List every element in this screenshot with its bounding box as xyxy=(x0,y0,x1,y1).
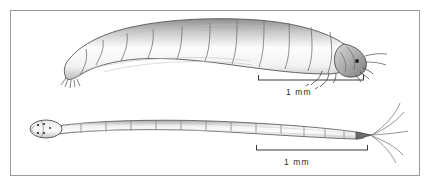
lower-larva-head-capsule xyxy=(30,120,62,138)
upper-larva-eye-spot xyxy=(355,59,359,63)
scale-bar-lower-label: 1 mm xyxy=(284,157,310,167)
upper-larva-body xyxy=(64,19,353,80)
upper-larva-head-capsule xyxy=(334,44,366,77)
lower-larva-caudal-setae xyxy=(372,103,408,163)
scale-bar-lower xyxy=(256,145,368,150)
scale-bar-upper-label: 1 mm xyxy=(286,87,312,97)
larvae-figure-svg xyxy=(0,0,429,186)
upper-larva-drawing xyxy=(61,19,387,89)
upper-larva-antenna xyxy=(365,54,387,65)
lower-larva-drawing xyxy=(30,103,408,163)
illustration-plate: 1 mm 1 mm xyxy=(0,0,429,186)
